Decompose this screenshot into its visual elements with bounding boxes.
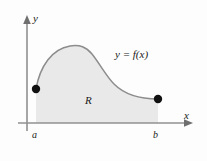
function-equation-label: y = f(x) — [115, 49, 148, 60]
upper-bound-label-b: b — [153, 130, 158, 140]
curve-left-endpoint-dot — [32, 85, 40, 93]
region-label-r: R — [85, 95, 92, 106]
y-axis-arrow-icon — [23, 15, 31, 24]
y-axis-label: y — [33, 13, 38, 24]
curve-right-endpoint-dot — [154, 95, 162, 103]
figure-container: y x a b R y = f(x) — [0, 0, 207, 161]
x-axis-label: x — [184, 110, 189, 121]
lower-bound-label-a: a — [32, 130, 37, 140]
